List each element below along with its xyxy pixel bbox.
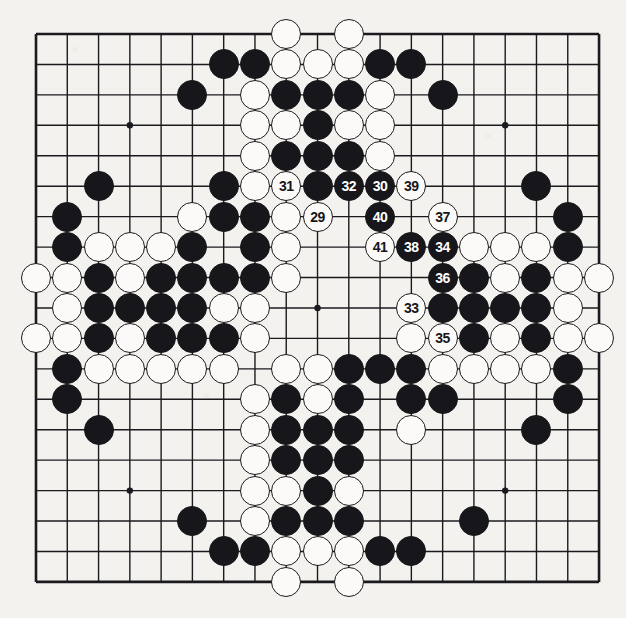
black-stone[interactable] [303, 476, 333, 506]
white-stone[interactable] [240, 80, 270, 110]
black-stone[interactable] [334, 384, 364, 414]
move-stone-36[interactable]: 36 [428, 263, 458, 293]
black-stone[interactable] [240, 202, 270, 232]
black-stone[interactable] [177, 263, 207, 293]
black-stone[interactable] [521, 415, 551, 445]
white-stone[interactable] [365, 80, 395, 110]
white-stone[interactable] [240, 476, 270, 506]
white-stone[interactable] [177, 202, 207, 232]
white-stone[interactable] [553, 263, 583, 293]
white-stone[interactable] [365, 141, 395, 171]
white-stone[interactable] [271, 354, 301, 384]
black-stone[interactable] [334, 141, 364, 171]
black-stone[interactable] [84, 415, 114, 445]
white-stone[interactable] [334, 567, 364, 597]
white-stone[interactable] [334, 19, 364, 49]
white-stone[interactable] [584, 263, 614, 293]
black-stone[interactable] [209, 263, 239, 293]
black-stone[interactable] [146, 293, 176, 323]
black-stone[interactable] [209, 323, 239, 353]
white-stone[interactable] [209, 293, 239, 323]
black-stone[interactable] [459, 506, 489, 536]
black-stone[interactable] [115, 293, 145, 323]
black-stone[interactable] [334, 354, 364, 384]
black-stone[interactable] [334, 445, 364, 475]
white-stone[interactable] [84, 232, 114, 262]
move-stone-29[interactable]: 29 [303, 202, 333, 232]
move-stone-34[interactable]: 34 [428, 232, 458, 262]
white-stone[interactable] [303, 384, 333, 414]
white-stone[interactable] [115, 232, 145, 262]
white-stone[interactable] [271, 202, 301, 232]
black-stone[interactable] [303, 415, 333, 445]
white-stone[interactable] [303, 49, 333, 79]
black-stone[interactable] [428, 293, 458, 323]
white-stone[interactable] [240, 293, 270, 323]
white-stone[interactable] [396, 415, 426, 445]
black-stone[interactable] [459, 263, 489, 293]
black-stone[interactable] [303, 445, 333, 475]
black-stone[interactable] [459, 293, 489, 323]
white-stone[interactable] [115, 354, 145, 384]
white-stone[interactable] [52, 263, 82, 293]
move-stone-37[interactable]: 37 [428, 202, 458, 232]
white-stone[interactable] [334, 110, 364, 140]
white-stone[interactable] [428, 354, 458, 384]
black-stone[interactable] [553, 202, 583, 232]
black-stone[interactable] [334, 80, 364, 110]
black-stone[interactable] [271, 141, 301, 171]
black-stone[interactable] [84, 323, 114, 353]
white-stone[interactable] [240, 415, 270, 445]
white-stone[interactable] [21, 263, 51, 293]
white-stone[interactable] [146, 232, 176, 262]
white-stone[interactable] [553, 323, 583, 353]
black-stone[interactable] [84, 263, 114, 293]
white-stone[interactable] [553, 293, 583, 323]
white-stone[interactable] [240, 141, 270, 171]
black-stone[interactable] [209, 202, 239, 232]
black-stone[interactable] [553, 384, 583, 414]
black-stone[interactable] [428, 80, 458, 110]
black-stone[interactable] [303, 141, 333, 171]
white-stone[interactable] [84, 354, 114, 384]
white-stone[interactable] [490, 354, 520, 384]
black-stone[interactable] [84, 171, 114, 201]
white-stone[interactable] [303, 354, 333, 384]
black-stone[interactable] [271, 415, 301, 445]
black-stone[interactable] [303, 110, 333, 140]
black-stone[interactable] [303, 80, 333, 110]
white-stone[interactable] [240, 171, 270, 201]
white-stone[interactable] [303, 536, 333, 566]
white-stone[interactable] [209, 354, 239, 384]
black-stone[interactable] [490, 293, 520, 323]
black-stone[interactable] [209, 49, 239, 79]
white-stone[interactable] [146, 354, 176, 384]
white-stone[interactable] [271, 263, 301, 293]
black-stone[interactable] [209, 171, 239, 201]
black-stone[interactable] [84, 293, 114, 323]
black-stone[interactable] [365, 354, 395, 384]
black-stone[interactable] [271, 80, 301, 110]
black-stone[interactable] [146, 263, 176, 293]
white-stone[interactable] [490, 263, 520, 293]
move-stone-41[interactable]: 41 [365, 232, 395, 262]
black-stone[interactable] [521, 263, 551, 293]
black-stone[interactable] [428, 384, 458, 414]
black-stone[interactable] [303, 506, 333, 536]
white-stone[interactable] [459, 354, 489, 384]
move-stone-40[interactable]: 40 [365, 202, 395, 232]
white-stone[interactable] [334, 476, 364, 506]
black-stone[interactable] [334, 415, 364, 445]
black-stone[interactable] [553, 354, 583, 384]
black-stone[interactable] [303, 171, 333, 201]
black-stone[interactable] [240, 263, 270, 293]
white-stone[interactable] [271, 476, 301, 506]
black-stone[interactable] [334, 506, 364, 536]
black-stone[interactable] [553, 232, 583, 262]
white-stone[interactable] [240, 506, 270, 536]
move-stone-35[interactable]: 35 [428, 323, 458, 353]
black-stone[interactable] [240, 232, 270, 262]
move-stone-32[interactable]: 32 [334, 171, 364, 201]
black-stone[interactable] [209, 536, 239, 566]
white-stone[interactable] [240, 445, 270, 475]
